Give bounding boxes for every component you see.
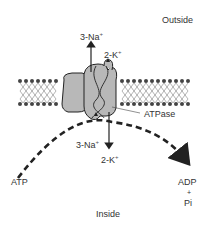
diagram-graphics	[0, 0, 212, 225]
atpase-label: ATPase	[144, 110, 175, 119]
region-inside-label: Inside	[96, 210, 120, 219]
plus-sign: +	[187, 189, 191, 196]
lipid-bilayer-left	[18, 79, 58, 106]
ion-k-top-label: 2-K+	[104, 49, 122, 60]
ion-k-bottom-label: 2-K+	[101, 154, 119, 165]
lipid-bilayer-right	[120, 79, 190, 106]
adp-label: ADP	[178, 178, 197, 187]
ion-na-out-label: 3-Na+	[80, 31, 103, 42]
atp-label: ATP	[11, 178, 28, 187]
ion-na-in-label: 3-Na+	[76, 139, 99, 150]
atpase-pointer	[112, 107, 140, 113]
atp-hydrolysis-arrow	[18, 120, 184, 178]
diagram-canvas: Outside 3-Na+ 2-K+ ATPase 3-Na+ 2-K+ ATP…	[0, 0, 212, 225]
pi-label: Pi	[184, 199, 192, 208]
region-outside-label: Outside	[162, 16, 193, 25]
atpase-protein	[62, 60, 117, 120]
